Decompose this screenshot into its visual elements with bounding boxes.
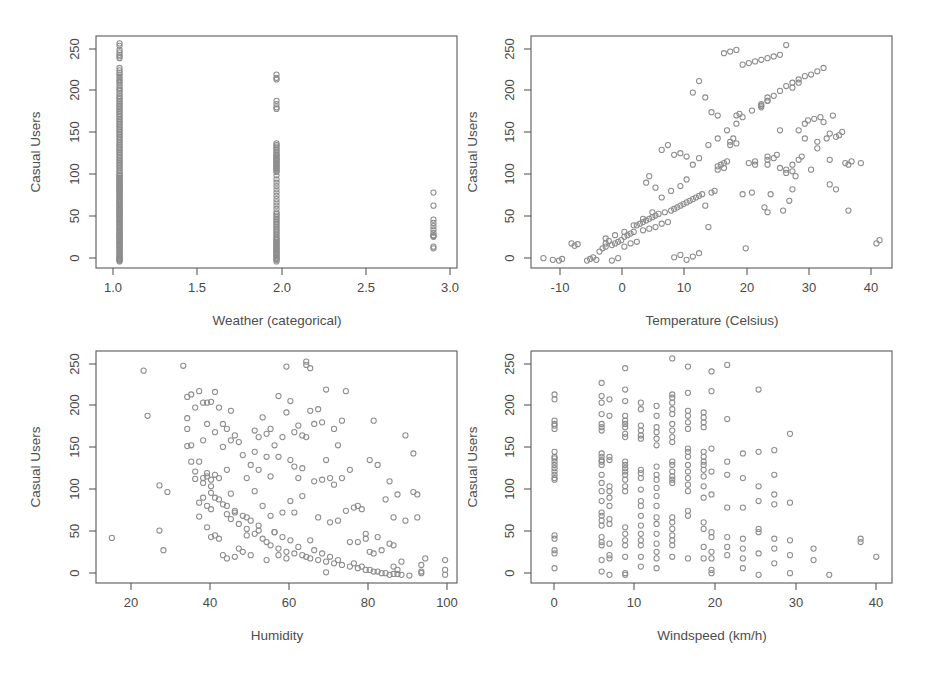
data-point bbox=[647, 226, 652, 231]
svg-text:150: 150 bbox=[67, 121, 82, 143]
data-point bbox=[335, 443, 340, 448]
panel-humidity-y-ticklabels: 0 50 100 150 200 250 bbox=[67, 353, 82, 576]
data-point bbox=[292, 551, 297, 556]
data-point bbox=[399, 559, 404, 564]
data-point bbox=[355, 539, 360, 544]
data-point bbox=[796, 128, 801, 133]
data-point bbox=[654, 436, 659, 441]
data-point bbox=[622, 244, 627, 249]
data-point bbox=[264, 557, 269, 562]
data-point bbox=[197, 514, 202, 519]
data-point bbox=[740, 566, 745, 571]
data-point bbox=[284, 410, 289, 415]
panel-humidity-x-ticklabels: 20 40 60 80 100 bbox=[124, 595, 458, 610]
data-point bbox=[391, 515, 396, 520]
panel-weather-svg: 0 50 100 150 200 250 1.0 1.5 2.0 2.5 3.0 bbox=[0, 0, 470, 340]
data-point bbox=[821, 119, 826, 124]
data-point bbox=[244, 526, 249, 531]
data-point bbox=[678, 151, 683, 156]
data-point bbox=[815, 139, 820, 144]
data-point bbox=[765, 154, 770, 159]
svg-text:40: 40 bbox=[864, 280, 878, 295]
data-point bbox=[805, 118, 810, 123]
data-point bbox=[224, 426, 229, 431]
data-point bbox=[756, 498, 761, 503]
svg-text:100: 100 bbox=[67, 163, 82, 185]
data-point bbox=[208, 477, 213, 482]
data-point bbox=[685, 482, 690, 487]
data-point bbox=[670, 526, 675, 531]
data-point bbox=[204, 471, 209, 476]
data-point bbox=[701, 495, 706, 500]
data-point bbox=[787, 198, 792, 203]
panel-temperature-x-ticks bbox=[560, 268, 871, 275]
panel-temperature-y-ticklabels: 0 50 100 150 200 250 bbox=[502, 38, 517, 261]
data-point bbox=[824, 136, 829, 141]
data-point bbox=[696, 78, 701, 83]
data-point bbox=[684, 154, 689, 159]
data-point bbox=[740, 546, 745, 551]
svg-text:1.0: 1.0 bbox=[104, 280, 122, 295]
data-point bbox=[292, 464, 297, 469]
data-point bbox=[685, 426, 690, 431]
data-point bbox=[790, 169, 795, 174]
data-point bbox=[252, 449, 257, 454]
svg-text:0: 0 bbox=[67, 254, 82, 261]
data-point bbox=[685, 462, 690, 467]
svg-text:20: 20 bbox=[708, 595, 722, 610]
svg-text:60: 60 bbox=[282, 595, 296, 610]
data-point bbox=[740, 192, 745, 197]
data-point bbox=[802, 121, 807, 126]
panel-humidity-ylabel: Casual Users bbox=[28, 426, 43, 507]
data-point bbox=[703, 95, 708, 100]
data-point bbox=[827, 131, 832, 136]
data-point bbox=[244, 475, 249, 480]
panel-weather-ylabel: Casual Users bbox=[28, 111, 43, 192]
data-point bbox=[709, 369, 714, 374]
data-point bbox=[728, 49, 733, 54]
data-point bbox=[599, 472, 604, 477]
panel-humidity-x-ticks bbox=[131, 583, 447, 590]
data-point bbox=[756, 572, 761, 577]
data-point bbox=[654, 443, 659, 448]
data-point bbox=[827, 182, 832, 187]
data-point bbox=[185, 416, 190, 421]
data-point bbox=[316, 407, 321, 412]
data-point bbox=[323, 457, 328, 462]
data-point bbox=[204, 421, 209, 426]
svg-text:100: 100 bbox=[436, 595, 458, 610]
data-point bbox=[701, 474, 706, 479]
data-point bbox=[638, 407, 643, 412]
panel-windspeed-ylabel: Casual Users bbox=[465, 426, 480, 507]
data-point bbox=[216, 475, 221, 480]
data-point bbox=[690, 162, 695, 167]
data-point bbox=[777, 128, 782, 133]
data-point bbox=[638, 513, 643, 518]
data-point bbox=[552, 536, 557, 541]
data-point bbox=[787, 431, 792, 436]
data-point bbox=[678, 252, 683, 257]
data-point bbox=[320, 420, 325, 425]
data-point bbox=[260, 415, 265, 420]
svg-text:150: 150 bbox=[67, 436, 82, 458]
panel-windspeed-xlabel: Windspeed (km/h) bbox=[657, 628, 767, 643]
data-point bbox=[701, 556, 706, 561]
data-point bbox=[752, 59, 757, 64]
data-point bbox=[638, 564, 643, 569]
data-point bbox=[252, 489, 257, 494]
data-point bbox=[599, 569, 604, 574]
data-point bbox=[224, 467, 229, 472]
data-point bbox=[654, 494, 659, 499]
data-point bbox=[752, 159, 757, 164]
data-point bbox=[552, 551, 557, 556]
data-point bbox=[331, 426, 336, 431]
data-point bbox=[654, 464, 659, 469]
data-point bbox=[709, 549, 714, 554]
data-point bbox=[607, 572, 612, 577]
panel-weather-points bbox=[117, 41, 436, 264]
data-point bbox=[638, 523, 643, 528]
data-point bbox=[228, 516, 233, 521]
svg-text:2.0: 2.0 bbox=[273, 280, 291, 295]
data-point bbox=[701, 484, 706, 489]
data-point bbox=[784, 83, 789, 88]
